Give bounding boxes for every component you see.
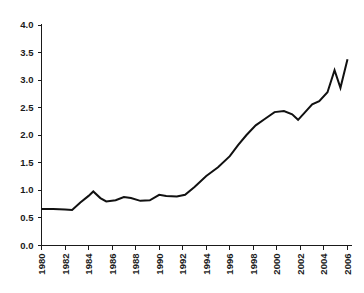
x-axis-tick-label: 1996 — [224, 254, 235, 275]
x-axis-tick-label: 1986 — [107, 254, 118, 275]
x-axis-tick-label: 2006 — [342, 254, 353, 275]
x-axis-label-group: 1980198219841986198819901992199419961998… — [36, 253, 353, 275]
x-axis-tick-label: 1992 — [177, 254, 188, 275]
y-axis-tick-label: 2.0 — [20, 129, 33, 140]
x-axis-tick-label: 1998 — [248, 254, 259, 275]
chart-canvas: 0.00.51.01.52.02.53.03.54.0 198019821984… — [0, 0, 364, 293]
y-axis-tick-group — [38, 25, 42, 246]
x-axis-tick-label: 1988 — [130, 254, 141, 275]
x-axis-tick-label: 1980 — [36, 254, 47, 275]
x-axis-tick-label: 1990 — [154, 254, 165, 275]
line-chart: 0.00.51.01.52.02.53.03.54.0 198019821984… — [0, 0, 364, 293]
x-axis-tick-label: 2002 — [295, 254, 306, 275]
x-axis-tick-label: 1984 — [83, 253, 94, 275]
y-axis-tick-label: 3.0 — [20, 74, 33, 85]
data-series-line — [42, 59, 348, 210]
y-axis-tick-label: 3.5 — [20, 47, 34, 58]
x-axis-tick-label: 1982 — [60, 254, 71, 275]
x-axis-tick-label: 2000 — [271, 254, 282, 275]
x-axis-tick-group — [42, 246, 348, 250]
x-axis-tick-label: 2004 — [318, 253, 329, 275]
y-axis-tick-label: 1.0 — [20, 184, 33, 195]
y-axis-tick-label: 0.0 — [20, 240, 33, 251]
y-axis-tick-label: 4.0 — [20, 19, 33, 30]
y-axis-tick-label: 1.5 — [20, 157, 34, 168]
y-axis-tick-label: 2.5 — [20, 102, 34, 113]
y-axis-label-group: 0.00.51.01.52.02.53.03.54.0 — [20, 19, 34, 251]
y-axis-tick-label: 0.5 — [20, 212, 34, 223]
x-axis-tick-label: 1994 — [201, 253, 212, 275]
